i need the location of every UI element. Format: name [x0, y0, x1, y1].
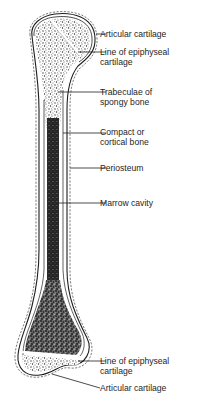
label-epiphyseal-line-bottom-2: cartilage [100, 366, 132, 376]
label-articular-cartilage-bottom: Articular cartilage [100, 383, 166, 393]
label-compact-bone-2: cortical bone [100, 137, 149, 147]
label-epiphyseal-line-top-1: Line of epiphyseal [100, 47, 169, 57]
label-trabeculae-1: Trabeculae of [100, 87, 152, 97]
leader-articular-bottom [52, 374, 100, 388]
label-compact-bone-1: Compact or [100, 127, 144, 137]
label-marrow-cavity: Marrow cavity [100, 198, 153, 208]
label-articular-cartilage-top: Articular cartilage [100, 29, 166, 39]
label-epiphyseal-line-bottom-1: Line of epiphyseal [100, 356, 169, 366]
label-epiphyseal-line-top-2: cartilage [100, 57, 132, 67]
label-trabeculae-2: spongy bone [100, 97, 149, 107]
label-periosteum: Periosteum [100, 163, 143, 173]
